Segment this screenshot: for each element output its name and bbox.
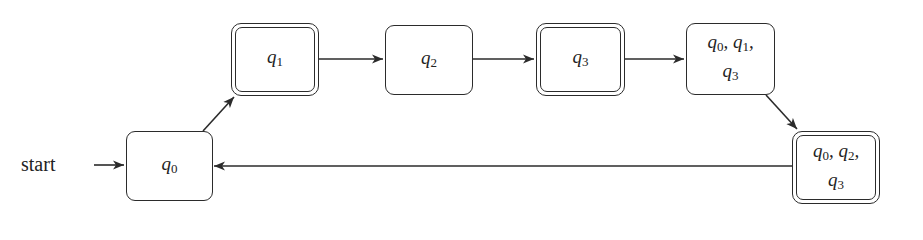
- state-q0-q1-q3[interactable]: q0, q1,q3: [686, 23, 775, 95]
- state-label: q3: [573, 45, 589, 74]
- state-q0-q2-q3[interactable]: q0, q2,q3: [792, 131, 880, 204]
- state-label: q1: [267, 45, 283, 74]
- state-q2[interactable]: q2: [385, 25, 473, 95]
- state-label: q0, q1,q3: [707, 30, 753, 88]
- start-label: start: [21, 153, 55, 176]
- edge-q0-to-q1: [203, 97, 234, 131]
- edge-q0q1q3-to-q0q2q3: [766, 95, 797, 129]
- state-label: q2: [421, 46, 437, 75]
- state-label: q0, q2,q3: [813, 139, 859, 197]
- state-label: q0: [162, 152, 178, 181]
- state-q3[interactable]: q3: [536, 23, 625, 96]
- state-q1[interactable]: q1: [231, 23, 319, 96]
- state-q0[interactable]: q0: [126, 131, 213, 201]
